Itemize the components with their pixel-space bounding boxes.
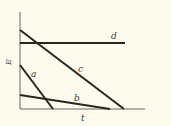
label-b: b [74,93,80,103]
label-c: c [78,64,83,74]
y-axis-label: E [4,59,13,66]
label-a: a [31,69,36,79]
diagram-canvas: d c a b t E [0,0,171,126]
line-b [20,95,110,109]
energy-time-diagram: d c a b t E [0,0,171,126]
line-a [20,65,53,109]
label-d: d [111,31,117,41]
x-axis-label: t [81,113,85,123]
